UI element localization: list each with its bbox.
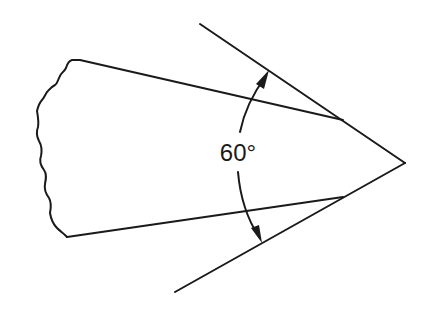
- angle-label: 60°: [220, 139, 256, 166]
- broken-end-outline: [37, 60, 80, 237]
- lower-body-edge: [67, 197, 343, 237]
- angle-diagram: 60°: [0, 0, 434, 313]
- lower-tangent-line: [175, 163, 405, 292]
- upper-body-edge: [80, 60, 343, 120]
- arrowhead-down-icon: [251, 225, 262, 243]
